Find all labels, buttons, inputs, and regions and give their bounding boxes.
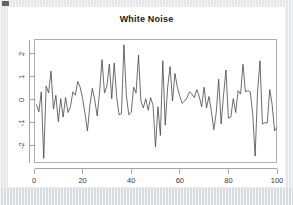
x-axis-tick-labels: 020406080100: [32, 176, 283, 185]
x-tick-label: 100: [271, 176, 284, 185]
y-tick-label: 2: [18, 52, 27, 56]
x-axis: 020406080100: [32, 169, 283, 186]
y-tick-label: 1: [18, 75, 27, 79]
x-tick-label: 20: [78, 176, 86, 185]
screenshot-viewport: White Noise 210-1-2 020406080100: [0, 0, 293, 205]
white-noise-line-chart: 210-1-2 020406080100: [8, 7, 285, 187]
y-tick-label: 0: [18, 98, 27, 102]
y-tick-label: -1: [18, 119, 27, 126]
x-tick-label: 80: [224, 176, 232, 185]
series-group: [36, 45, 277, 159]
y-axis-ticks: [30, 54, 35, 146]
y-tick-label: -2: [18, 142, 27, 149]
series-line-white-noise: [36, 45, 277, 159]
x-axis-ticks: [34, 169, 277, 174]
plot-card: White Noise 210-1-2 020406080100: [8, 7, 285, 187]
y-axis-tick-labels: 210-1-2: [18, 52, 27, 149]
bottom-artifact-band: [0, 188, 293, 205]
y-axis: 210-1-2: [18, 40, 35, 163]
corner-artifact-mark: [2, 1, 9, 6]
x-tick-label: 60: [176, 176, 184, 185]
x-tick-label: 40: [127, 176, 135, 185]
x-tick-label: 0: [32, 176, 36, 185]
